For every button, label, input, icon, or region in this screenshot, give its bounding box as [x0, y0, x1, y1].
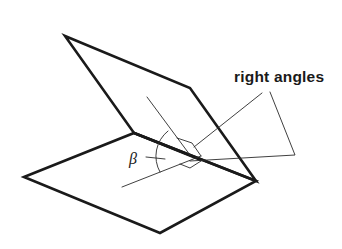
lower-right-angle-marker — [180, 161, 201, 168]
leader-upper-right-angle — [194, 93, 262, 147]
leader-lower-right-angle — [190, 92, 295, 161]
beta-angle-arc — [156, 131, 168, 172]
right-angles-label: right angles — [234, 68, 324, 85]
hinge-line — [134, 133, 201, 160]
beta-label: β — [128, 150, 137, 168]
lower-plane — [24, 133, 256, 233]
dihedral-angle-diagram: right angles β — [0, 0, 342, 249]
